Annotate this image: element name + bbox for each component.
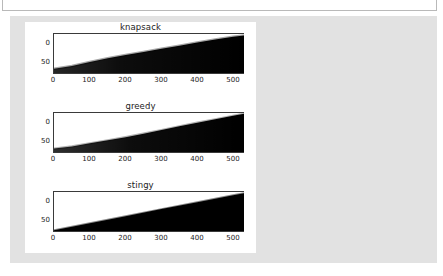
x-tick-label: 300 <box>154 76 167 85</box>
y-tick-label: 0 <box>28 119 50 126</box>
y-tick-label: 50 <box>28 59 50 66</box>
x-tick-label: 0 <box>51 234 55 243</box>
subplot-knapsack: knapsack 0 50 <box>25 22 256 92</box>
plot-axes <box>53 191 244 232</box>
scatter-wedge-stingy <box>54 192 244 231</box>
plot-area <box>54 34 244 73</box>
y-axis-labels: 0 50 <box>25 33 50 74</box>
x-tick-label: 200 <box>118 234 131 243</box>
x-axis-labels: 0 100 200 300 400 500 <box>53 234 244 245</box>
x-axis-labels: 0 100 200 300 400 500 <box>53 155 244 166</box>
x-tick-label: 0 <box>51 76 55 85</box>
subplot-greedy: greedy 0 50 <box>25 101 256 171</box>
plot-area <box>54 192 244 231</box>
y-tick-label: 50 <box>28 217 50 224</box>
x-axis-labels: 0 100 200 300 400 500 <box>53 76 244 87</box>
y-axis-labels: 0 50 <box>25 112 50 153</box>
x-tick-label: 400 <box>190 155 203 164</box>
x-tick-label: 200 <box>118 155 131 164</box>
x-tick-label: 300 <box>154 155 167 164</box>
scatter-wedge-greedy <box>54 113 244 152</box>
y-axis-labels: 0 50 <box>25 191 50 232</box>
y-tick-label: 0 <box>28 40 50 47</box>
x-tick-label: 100 <box>82 234 95 243</box>
subplot-title: knapsack <box>25 22 256 32</box>
x-tick-label: 100 <box>82 76 95 85</box>
plot-axes <box>53 33 244 74</box>
x-tick-label: 0 <box>51 155 55 164</box>
x-tick-label: 400 <box>190 234 203 243</box>
x-tick-label: 300 <box>154 234 167 243</box>
output-panel: knapsack 0 50 <box>10 16 437 263</box>
x-tick-label: 400 <box>190 76 203 85</box>
plot-axes <box>53 112 244 153</box>
x-tick-label: 500 <box>226 155 239 164</box>
subplot-stingy: stingy 0 50 0 100 200 <box>25 180 256 250</box>
y-tick-label: 0 <box>28 198 50 205</box>
x-tick-label: 200 <box>118 76 131 85</box>
x-tick-label: 500 <box>226 76 239 85</box>
y-tick-label: 50 <box>28 138 50 145</box>
x-tick-label: 500 <box>226 234 239 243</box>
subplot-title: greedy <box>25 101 256 111</box>
plot-area <box>54 113 244 152</box>
scatter-wedge-knapsack <box>54 34 244 73</box>
subplot-title: stingy <box>25 180 256 190</box>
x-tick-label: 100 <box>82 155 95 164</box>
matplotlib-figure: knapsack 0 50 <box>25 22 256 253</box>
cell-top-border <box>2 0 437 11</box>
